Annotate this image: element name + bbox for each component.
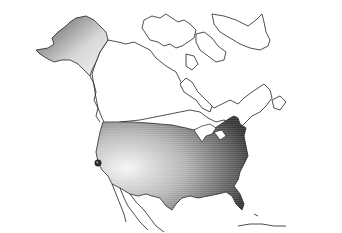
arctic-islands	[142, 14, 196, 48]
arctic-island-2	[196, 32, 226, 62]
location-marker[interactable]	[95, 160, 101, 166]
location-marker-highlight	[96, 161, 98, 163]
greenland	[212, 14, 270, 50]
caribbean-islands	[238, 214, 286, 226]
newfoundland	[272, 96, 286, 110]
north-america-map	[0, 0, 342, 233]
arctic-island-3	[186, 54, 198, 70]
